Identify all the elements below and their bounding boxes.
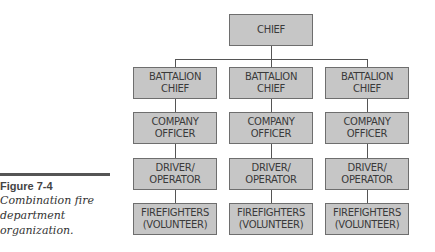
box-label-line2: (VOLUNTEER) <box>335 219 400 231</box>
box-label: CHIEF <box>257 24 285 36</box>
org-box-company-officer-1: COMPANY OFFICER <box>133 112 217 144</box>
caption-line: department <box>0 208 130 223</box>
org-box-firefighters-3: FIREFIGHTERS (VOLUNTEER) <box>325 203 409 235</box>
org-box-company-officer-3: COMPANY OFFICER <box>325 112 409 144</box>
org-box-firefighters-2: FIREFIGHTERS (VOLUNTEER) <box>229 203 313 235</box>
org-box-battalion-chief-2: BATTALION CHIEF <box>229 67 313 99</box>
box-label-line1: FIREFIGHTERS <box>141 207 209 219</box>
box-label-line1: FIREFIGHTERS <box>333 207 401 219</box>
org-box-driver-operator-3: DRIVER/ OPERATOR <box>325 158 409 190</box>
box-label-line1: COMPANY <box>343 116 390 128</box>
box-label-line1: BATTALION <box>245 71 297 83</box>
box-label-line2: OPERATOR <box>341 174 392 186</box>
org-box-driver-operator-1: DRIVER/ OPERATOR <box>133 158 217 190</box>
box-label-line2: OPERATOR <box>245 174 296 186</box>
box-label-line2: (VOLUNTEER) <box>239 219 304 231</box>
box-label-line1: COMPANY <box>151 116 198 128</box>
box-label-line1: DRIVER/ <box>252 162 291 174</box>
box-label-line2: OPERATOR <box>149 174 200 186</box>
org-box-battalion-chief-3: BATTALION CHIEF <box>325 67 409 99</box>
box-label-line1: BATTALION <box>341 71 393 83</box>
box-label-line1: COMPANY <box>247 116 294 128</box>
figure-caption: Combination fire department organization… <box>0 193 130 238</box>
caption-line: Combination fire <box>0 193 130 208</box>
box-label-line1: FIREFIGHTERS <box>237 207 305 219</box>
caption-line: organization. <box>0 223 130 238</box>
org-box-company-officer-2: COMPANY OFFICER <box>229 112 313 144</box>
caption-rule <box>0 173 110 176</box>
box-label-line2: OFFICER <box>347 128 387 140</box>
org-box-chief: CHIEF <box>229 14 313 46</box>
connector-chief-down <box>271 46 272 59</box>
box-label-line2: CHIEF <box>257 83 285 95</box>
box-label-line1: DRIVER/ <box>348 162 387 174</box>
box-label-line1: BATTALION <box>149 71 201 83</box>
figure-label: Figure 7-4 <box>0 180 53 192</box>
box-label-line2: OFFICER <box>155 128 195 140</box>
box-label-line1: DRIVER/ <box>156 162 195 174</box>
box-label-line2: (VOLUNTEER) <box>143 219 208 231</box>
box-label-line2: OFFICER <box>251 128 291 140</box>
org-box-battalion-chief-1: BATTALION CHIEF <box>133 67 217 99</box>
box-label-line2: CHIEF <box>353 83 381 95</box>
org-box-driver-operator-2: DRIVER/ OPERATOR <box>229 158 313 190</box>
org-box-firefighters-1: FIREFIGHTERS (VOLUNTEER) <box>133 203 217 235</box>
box-label-line2: CHIEF <box>161 83 189 95</box>
